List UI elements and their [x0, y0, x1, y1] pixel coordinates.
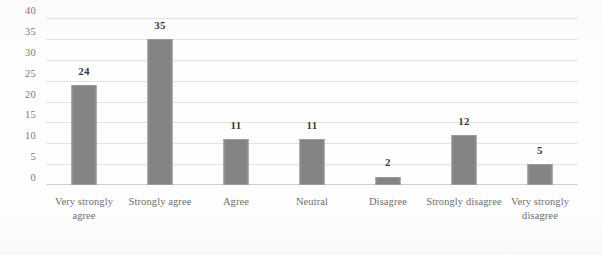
bar-value-label: 11	[307, 119, 318, 131]
x-axis-label: Agree	[197, 195, 275, 209]
bar-value-label: 24	[78, 65, 90, 77]
bar-group: 11	[198, 18, 274, 185]
bar-group: 35	[122, 18, 198, 185]
x-axis-label: Strongly agree	[121, 195, 199, 209]
bar-group: 5	[502, 18, 578, 185]
plot-area: 24 35 11 11 2 12	[46, 18, 578, 185]
y-axis-tick: 30	[0, 46, 36, 57]
bar[interactable]	[376, 177, 401, 185]
bar[interactable]	[224, 139, 249, 185]
bar-value-label: 2	[385, 156, 391, 168]
bar-value-label: 12	[458, 115, 470, 127]
bar-group: 12	[426, 18, 502, 185]
x-axis-label: Neutral	[273, 195, 351, 209]
bar[interactable]	[148, 39, 173, 185]
y-axis-tick: 35	[0, 25, 36, 36]
x-axis-label: Very strongly disagree	[501, 195, 579, 223]
y-axis-tick: 25	[0, 67, 36, 78]
y-axis-tick: 10	[0, 130, 36, 141]
bar-group: 2	[350, 18, 426, 185]
bar-value-label: 35	[154, 19, 166, 31]
y-axis-tick: 20	[0, 88, 36, 99]
x-axis: Very strongly agree Strongly agree Agree…	[46, 195, 578, 251]
x-axis-label: Very strongly agree	[45, 195, 123, 223]
bar[interactable]	[528, 164, 553, 185]
y-axis-tick: 15	[0, 109, 36, 120]
x-axis-label: Strongly disagree	[425, 195, 503, 209]
y-axis-tick: 5	[0, 151, 36, 162]
bar[interactable]	[300, 139, 325, 185]
bar-group: 24	[46, 18, 122, 185]
y-axis-tick: 0	[0, 172, 36, 183]
y-axis: 40 35 30 25 20 15 10 5 0	[0, 10, 42, 193]
x-axis-label: Disagree	[349, 195, 427, 209]
bar[interactable]	[452, 135, 477, 185]
bar-chart: 40 35 30 25 20 15 10 5 0 24 35	[0, 0, 603, 255]
bar-group: 11	[274, 18, 350, 185]
y-axis-tick: 40	[0, 5, 36, 16]
bar[interactable]	[72, 85, 97, 185]
bar-value-label: 11	[231, 119, 242, 131]
bars: 24 35 11 11 2 12	[46, 18, 578, 185]
bar-value-label: 5	[537, 144, 543, 156]
